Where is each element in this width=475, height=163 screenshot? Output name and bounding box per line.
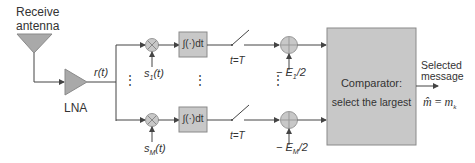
sampling-switch-icon-bottom (231, 105, 249, 121)
integrator-label-bottom: ∫(·)dt (179, 113, 207, 124)
comparator-label-line2: select the largest (327, 96, 416, 108)
sampling-switch-icon-top (231, 30, 249, 46)
switch-label-bottom: t=T (230, 131, 245, 141)
multiplier-icon-top (146, 39, 159, 52)
bias-label-top: − E1/2 (276, 67, 306, 80)
rt-label: r(t) (94, 67, 108, 78)
switch-label-top: t=T (230, 56, 245, 66)
output-label-line1: Selected (421, 60, 462, 71)
antenna-icon (17, 34, 64, 82)
output-label-line2: message (421, 71, 464, 82)
lna-label: LNA (64, 102, 87, 114)
ellipsis-bus: ⋮ (124, 74, 136, 86)
output-formula: m̂ = mk (423, 96, 456, 111)
multiplier-icon-bottom (146, 114, 159, 127)
adder-icon-top (281, 37, 298, 54)
reference-signal-bottom: sM(t) (144, 143, 166, 156)
comparator-label-line1: Comparator: (327, 77, 416, 89)
lna-amplifier-icon (65, 69, 87, 95)
antenna-label-line2: antenna (16, 20, 59, 32)
ellipsis-integrator: ⋮ (194, 74, 206, 86)
adder-icon-bottom (281, 112, 298, 129)
reference-signal-top: s1(t) (144, 68, 164, 81)
bias-label-bottom: − EM/2 (276, 142, 308, 155)
integrator-label-top: ∫(·)dt (179, 38, 207, 49)
antenna-label-line1: Receive (16, 6, 59, 18)
